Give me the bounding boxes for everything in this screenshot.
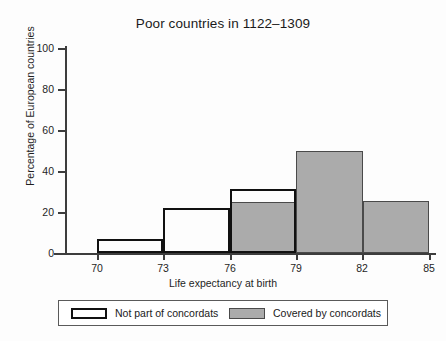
x-tick-label-79: 79 — [276, 262, 316, 274]
x-tick-label-73: 73 — [143, 262, 183, 274]
legend-label-not-part-of-concordats: Not part of concordats — [115, 307, 218, 319]
y-tick-mark-100 — [58, 48, 65, 50]
x-tick-label-70: 70 — [77, 262, 117, 274]
y-tick-mark-80 — [58, 89, 65, 91]
x-tick-mark-76 — [230, 254, 232, 260]
x-tick-mark-70 — [97, 254, 99, 260]
x-tick-label-76: 76 — [210, 262, 250, 274]
x-tick-mark-85 — [429, 254, 431, 260]
x-tick-label-82: 82 — [342, 262, 382, 274]
y-tick-mark-40 — [58, 171, 65, 173]
legend-item-covered-by-concordats[interactable]: Covered by concordats — [229, 301, 381, 325]
x-tick-label-85: 85 — [409, 262, 446, 274]
bar-not-covered-73-76 — [163, 208, 229, 253]
legend: Not part of concordats Covered by concor… — [58, 300, 388, 326]
legend-label-covered-by-concordats: Covered by concordats — [273, 307, 381, 319]
caption-ghost-strip — [0, 331, 446, 341]
x-axis-label: Life expectancy at birth — [0, 277, 446, 289]
legend-swatch-outline-icon — [71, 308, 107, 319]
bar-covered-82-85 — [363, 201, 429, 253]
bar-not-covered-76-79 — [230, 189, 296, 253]
y-axis-label: Percentage of European countries — [24, 0, 36, 212]
y-tick-label-0: 0 — [14, 248, 54, 258]
bar-covered-79-82 — [296, 151, 362, 254]
x-axis-line — [54, 253, 436, 255]
y-tick-mark-20 — [58, 212, 65, 214]
bar-not-covered-70-73 — [97, 239, 163, 253]
chart-figure: Poor countries in 1122–1309 100 80 60 40… — [0, 0, 446, 341]
y-axis-line — [65, 46, 67, 255]
y-tick-mark-60 — [58, 130, 65, 132]
chart-title: Poor countries in 1122–1309 — [0, 16, 446, 31]
x-tick-mark-79 — [296, 254, 298, 260]
legend-item-not-part-of-concordats[interactable]: Not part of concordats — [71, 301, 218, 325]
x-tick-mark-82 — [362, 254, 364, 260]
legend-swatch-filled-icon — [229, 308, 265, 319]
x-tick-mark-73 — [163, 254, 165, 260]
